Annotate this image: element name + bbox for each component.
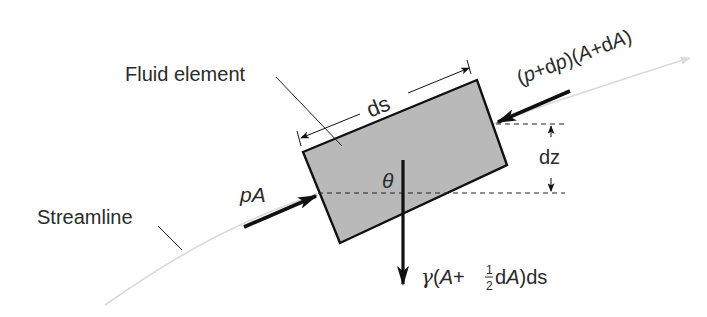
theta-label: θ bbox=[382, 169, 394, 192]
weight-label: γ(A+ bbox=[421, 265, 465, 289]
fraction-denominator: 2 bbox=[486, 279, 493, 293]
p-dp-A-dA-label: (p+dp)(A+dA) bbox=[514, 25, 635, 89]
p-dp-force-arrow bbox=[498, 91, 570, 122]
fluid-element-leader bbox=[276, 77, 342, 146]
weight-label-tail: dA)ds bbox=[495, 266, 547, 288]
fluid-element-label: Fluid element bbox=[125, 63, 246, 85]
weight-close-ds: )ds bbox=[519, 266, 547, 288]
dz-label: dz bbox=[539, 146, 560, 168]
weight-plus: + bbox=[453, 266, 465, 288]
fluid-element-diagram: dz ds Fluid element Streamline pA (p+dp)… bbox=[0, 0, 707, 317]
streamline-leader bbox=[158, 226, 182, 250]
weight-d: d bbox=[495, 266, 506, 288]
gamma-symbol: γ bbox=[421, 265, 433, 289]
fraction-numerator: 1 bbox=[486, 263, 493, 277]
fluid-element-shape bbox=[303, 80, 507, 243]
ds-extension-left bbox=[297, 131, 301, 146]
pA-label-A: A bbox=[250, 183, 266, 206]
weight-dA: A bbox=[505, 266, 519, 288]
streamline-label: Streamline bbox=[37, 206, 133, 228]
pA-label-p: p bbox=[239, 183, 252, 206]
ds-extension-right bbox=[467, 60, 471, 74]
pA-label: pA bbox=[239, 183, 266, 206]
weight-A: A bbox=[439, 266, 453, 288]
